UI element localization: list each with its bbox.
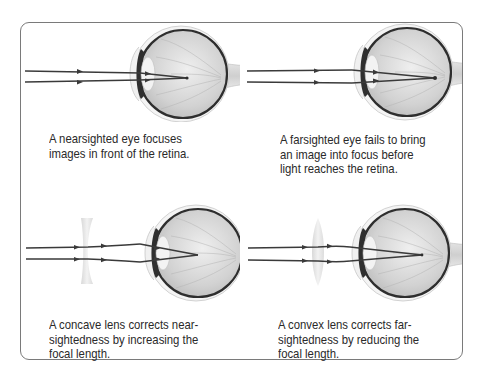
caption-farsighted: A farsighted eye fails to bring an image… — [280, 133, 426, 177]
farsighted-eye-illustration — [242, 22, 462, 122]
panel-farsighted: A farsighted eye fails to bring an image… — [242, 22, 462, 192]
convex-lens-icon — [312, 218, 324, 286]
nearsighted-eye-illustration — [20, 22, 240, 122]
caption-convex-correction: A convex lens corrects far- sightedness … — [278, 318, 419, 362]
caption-nearsighted: A nearsighted eye focuses images in fron… — [49, 132, 189, 161]
panel-convex-correction: A convex lens corrects far- sightedness … — [242, 196, 462, 366]
panel-nearsighted: A nearsighted eye focuses images in fron… — [20, 22, 240, 192]
caption-concave-correction: A concave lens corrects near- sightednes… — [49, 318, 198, 362]
concave-lens-illustration — [20, 196, 240, 306]
panel-concave-correction: A concave lens corrects near- sightednes… — [20, 196, 240, 366]
convex-lens-illustration — [242, 196, 462, 306]
concave-lens-icon — [81, 218, 93, 284]
eye-icon — [145, 205, 240, 301]
